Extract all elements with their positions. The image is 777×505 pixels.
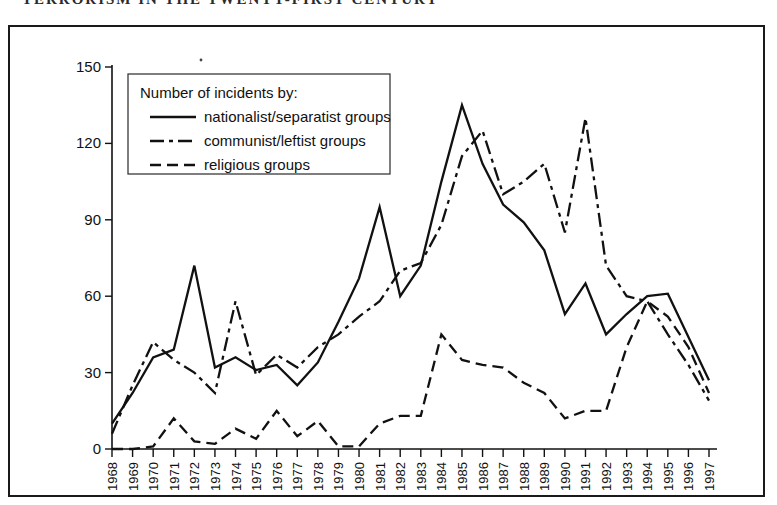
x-tick-label: 1995 — [661, 462, 676, 491]
x-tick-label: 1990 — [558, 462, 573, 491]
x-tick-label: 1979 — [331, 462, 346, 491]
x-tick-label: 1976 — [270, 462, 285, 491]
scan-speck — [200, 59, 203, 62]
x-tick-label: 1993 — [620, 462, 635, 491]
y-axis: 0306090120150 — [76, 58, 112, 457]
y-tick-label: 150 — [76, 58, 101, 75]
x-tick-label: 1978 — [311, 462, 326, 491]
x-tick-label: 1986 — [476, 462, 491, 491]
scanned-page: TERRORISM IN THE TWENTY-FIRST CENTURY 03… — [0, 0, 777, 505]
y-tick-label: 0 — [93, 440, 101, 457]
legend-entry-label: nationalist/separatist groups — [204, 108, 391, 125]
y-tick-label: 30 — [84, 364, 101, 381]
x-tick-label: 1996 — [681, 462, 696, 491]
x-tick-label: 1974 — [229, 462, 244, 491]
x-tick-label: 1997 — [702, 462, 717, 491]
y-tick-label: 120 — [76, 134, 101, 151]
legend-entry-label: communist/leftist groups — [204, 132, 366, 149]
x-tick-label: 1968 — [105, 462, 120, 491]
x-tick-label: 1972 — [187, 462, 202, 491]
x-tick-label: 1989 — [537, 462, 552, 491]
y-tick-label: 60 — [84, 287, 101, 304]
page-header-text: TERRORISM IN THE TWENTY-FIRST CENTURY — [22, 0, 439, 8]
x-tick-label: 1988 — [517, 462, 532, 491]
figure-border: 0306090120150 19681969197019711972197319… — [8, 25, 765, 497]
page-running-header: TERRORISM IN THE TWENTY-FIRST CENTURY — [0, 0, 777, 14]
x-tick-label: 1994 — [640, 462, 655, 491]
x-tick-label: 1982 — [393, 462, 408, 491]
x-axis: 1968196919701971197219731974197519761977… — [105, 449, 717, 491]
x-tick-label: 1973 — [208, 462, 223, 491]
x-tick-label: 1984 — [434, 462, 449, 491]
legend-title: Number of incidents by: — [140, 84, 298, 101]
series-line-dashed — [112, 301, 709, 449]
x-tick-label: 1991 — [578, 462, 593, 491]
incidents-by-group-line-chart: 0306090120150 19681969197019711972197319… — [10, 27, 763, 495]
x-tick-label: 1981 — [373, 462, 388, 491]
x-tick-label: 1987 — [496, 462, 511, 491]
y-tick-label: 90 — [84, 211, 101, 228]
x-tick-label: 1977 — [290, 462, 305, 491]
x-tick-label: 1970 — [146, 462, 161, 491]
x-tick-label: 1985 — [455, 462, 470, 491]
legend-entry-label: religious groups — [204, 156, 310, 173]
chart-legend: Number of incidents by:nationalist/separ… — [128, 74, 391, 174]
x-tick-label: 1971 — [167, 462, 182, 491]
x-tick-label: 1992 — [599, 462, 614, 491]
x-tick-label: 1969 — [126, 462, 141, 491]
x-tick-label: 1975 — [249, 462, 264, 491]
x-tick-label: 1983 — [414, 462, 429, 491]
x-tick-label: 1980 — [352, 462, 367, 491]
